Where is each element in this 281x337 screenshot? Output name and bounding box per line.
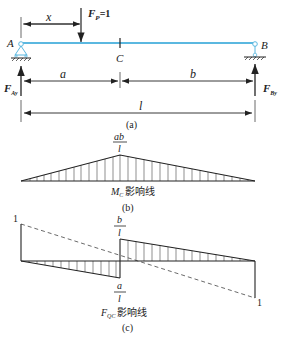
figure-c-fqc-influence-line: 1 1 b l <box>13 213 262 334</box>
fqc-neg-numerator: a <box>117 280 122 291</box>
caption-b: (b) <box>122 202 134 214</box>
figure-b-mc-influence-line: ab l <box>21 131 255 214</box>
dim-x-label: x <box>45 10 52 24</box>
mc-peak-denominator: l <box>118 143 121 154</box>
load-label: FP=1 <box>87 7 110 22</box>
fqc-pos-denominator: l <box>118 227 121 238</box>
point-a-label: A <box>6 37 14 49</box>
pin-support-icon <box>11 42 31 61</box>
reaction-b-label: FBy <box>262 82 277 96</box>
fqc-left-value: 1 <box>13 213 18 224</box>
mc-peak-numerator: ab <box>114 131 124 142</box>
fqc-right-value: 1 <box>257 297 262 308</box>
mc-title: MC影响线 <box>110 185 155 198</box>
fqc-neg-denominator: l <box>118 293 121 304</box>
caption-c: (c) <box>122 322 133 334</box>
point-c-label: C <box>116 52 124 64</box>
figure-a-beam: x FP=1 C A B FAy FBy <box>3 7 277 131</box>
dim-l-label: l <box>139 99 143 113</box>
fqc-title: FQC影响线 <box>100 306 147 319</box>
dim-a-label: a <box>60 67 66 81</box>
dim-b-label: b <box>190 67 196 81</box>
fqc-pos-numerator: b <box>117 214 122 225</box>
reaction-a-label: FAy <box>3 82 18 96</box>
influence-line-diagram: x FP=1 C A B FAy FBy <box>0 0 281 337</box>
point-b-label: B <box>261 39 268 51</box>
caption-a: (a) <box>126 119 137 131</box>
